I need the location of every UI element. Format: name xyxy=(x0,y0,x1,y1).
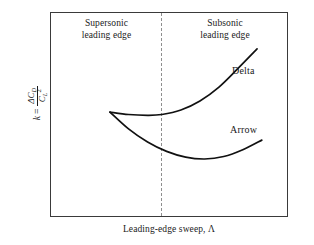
supersonic-subsonic-divider-line xyxy=(161,13,162,216)
region-label-subsonic-line1: Subsonic xyxy=(164,18,286,30)
y-axis-label-denominator: CL2 xyxy=(38,87,48,104)
y-axis-denominator-subscript: L xyxy=(41,93,48,97)
curve-label-arrow: Arrow xyxy=(230,124,257,135)
plot-frame xyxy=(50,12,288,217)
region-label-subsonic: Subsonic leading edge xyxy=(164,18,286,41)
region-label-subsonic-line2: leading edge xyxy=(164,30,286,42)
y-axis-denominator-text: C xyxy=(37,96,47,102)
region-label-supersonic-line2: leading edge xyxy=(54,30,159,42)
aerodynamic-schematic-figure: Supersonic leading edge Subsonic leading… xyxy=(0,0,314,245)
y-axis-label: k=ΔCDCL2 xyxy=(17,61,57,145)
y-axis-numerator-text: ΔC xyxy=(26,92,36,103)
y-axis-denominator-superscript: 2 xyxy=(35,89,42,92)
curve-label-delta: Delta xyxy=(232,65,255,76)
y-axis-label-variable: k xyxy=(32,116,42,120)
y-axis-label-equals: = xyxy=(32,109,42,114)
region-label-supersonic: Supersonic leading edge xyxy=(54,18,159,41)
y-axis-label-fraction: ΔCDCL2 xyxy=(27,86,48,106)
x-axis-label: Leading-edge sweep, Λ xyxy=(50,224,288,234)
region-label-supersonic-line1: Supersonic xyxy=(54,18,159,30)
